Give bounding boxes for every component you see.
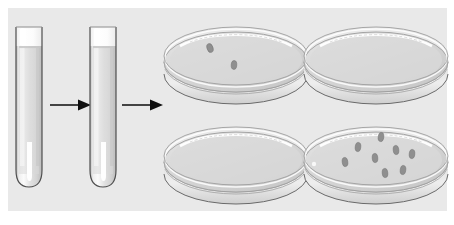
figure-root xyxy=(0,0,454,225)
transfer-arrow-2-icon xyxy=(122,96,164,114)
transfer-arrow-1-icon xyxy=(50,96,92,114)
petri-dish-top-right xyxy=(300,18,450,110)
test-tube-2 xyxy=(88,24,120,189)
petri-dish-bottom-left xyxy=(160,118,310,210)
test-tube-1 xyxy=(14,24,46,189)
petri-dish-top-left xyxy=(160,18,310,110)
petri-dish-bottom-right xyxy=(300,118,450,210)
